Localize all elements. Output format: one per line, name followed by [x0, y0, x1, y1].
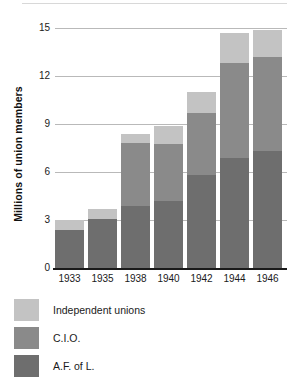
bar-segment: [55, 230, 84, 268]
bar-segment: [121, 206, 150, 268]
union-membership-stacked-bar-chart: 03691215 Millions of union members 19331…: [0, 0, 305, 381]
bar-segment: [154, 144, 183, 201]
top-rule: [22, 3, 287, 4]
legend-swatch: [14, 299, 39, 321]
y-axis-tick-label: 3: [30, 215, 50, 225]
x-axis-tick-label: 1946: [248, 273, 288, 284]
legend-item: C.I.O.: [14, 324, 294, 352]
bar-segment: [220, 63, 249, 157]
bar: [121, 134, 150, 268]
bar-segment: [154, 201, 183, 268]
bar: [220, 33, 249, 268]
bar-segment: [253, 30, 282, 57]
bar-segment: [121, 134, 150, 144]
bar: [187, 92, 216, 268]
legend-item: Independent unions: [14, 296, 294, 324]
bar-segment: [187, 92, 216, 113]
legend-label: Independent unions: [53, 304, 145, 316]
y-axis-tick-label: 9: [30, 119, 50, 129]
x-axis-line: [53, 268, 287, 270]
bar-segment: [154, 126, 183, 144]
bar: [88, 209, 117, 268]
bar-segment: [88, 219, 117, 268]
y-axis-tick-label: 15: [30, 23, 50, 33]
y-axis-tick-label: 12: [30, 71, 50, 81]
bar-segment: [253, 57, 282, 151]
bar: [253, 30, 282, 268]
y-axis-tick-label: 0: [30, 263, 50, 273]
y-axis-title: Millions of union members: [12, 74, 24, 234]
plot-area: [55, 28, 285, 268]
legend-item: A.F. of L.: [14, 352, 294, 380]
bar-segment: [55, 220, 84, 230]
bar-segment: [187, 113, 216, 175]
y-axis-tick-label: 6: [30, 167, 50, 177]
legend-label: C.I.O.: [53, 332, 80, 344]
chart-legend: Independent unionsC.I.O.A.F. of L.: [14, 296, 294, 380]
bar-segment: [253, 151, 282, 268]
bar-segment: [220, 33, 249, 63]
bar-segment: [187, 175, 216, 268]
bar: [154, 126, 183, 268]
bar-segment: [88, 209, 117, 219]
bar-segment: [121, 143, 150, 205]
bar-segment: [220, 158, 249, 268]
legend-label: A.F. of L.: [53, 360, 94, 372]
legend-swatch: [14, 355, 39, 377]
legend-swatch: [14, 327, 39, 349]
bar: [55, 220, 84, 268]
